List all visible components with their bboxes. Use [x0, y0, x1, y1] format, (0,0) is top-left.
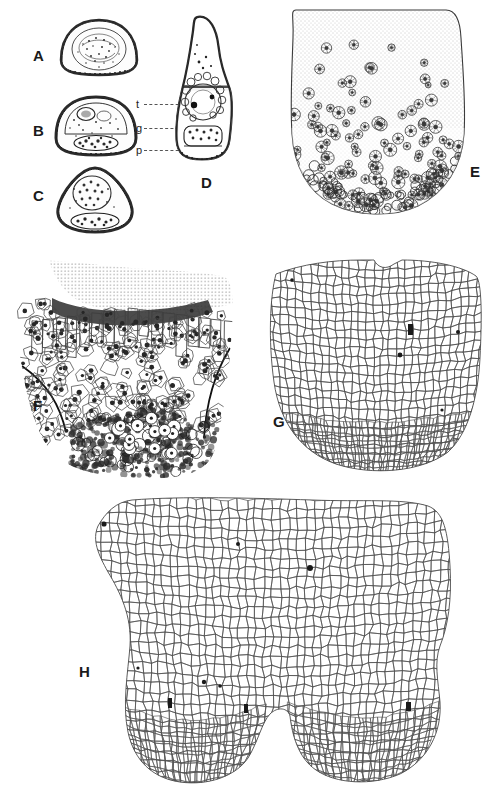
figure-plate: A: [0, 0, 496, 800]
panel-D: [170, 12, 238, 166]
panel-B-drawing: [52, 92, 140, 160]
panel-A: [58, 16, 140, 80]
panel-G-drawing: [262, 258, 486, 476]
panel-label-A: A: [33, 48, 44, 63]
panel-G: [262, 258, 486, 476]
annotation-t: t: [136, 99, 139, 110]
panel-label-H: H: [79, 664, 90, 679]
panel-H-drawing: [72, 496, 472, 788]
panel-E-drawing: [268, 8, 476, 222]
annotation-g: g: [136, 123, 142, 134]
panel-F: [8, 256, 238, 480]
panel-C-drawing: [52, 163, 138, 237]
panel-label-D: D: [201, 175, 212, 190]
panel-label-C: C: [33, 188, 44, 203]
panel-H: [72, 496, 472, 788]
panel-label-F: F: [33, 398, 43, 413]
panel-C: [52, 163, 138, 237]
panel-A-drawing: [58, 16, 140, 80]
panel-label-B: B: [33, 123, 44, 138]
panel-B: [52, 92, 140, 160]
panel-E: [268, 8, 476, 222]
panel-F-drawing: [8, 256, 238, 480]
panel-D-drawing: [170, 12, 238, 166]
annotation-p: p: [136, 145, 142, 156]
panel-label-E: E: [470, 164, 481, 179]
panel-label-G: G: [273, 414, 285, 429]
